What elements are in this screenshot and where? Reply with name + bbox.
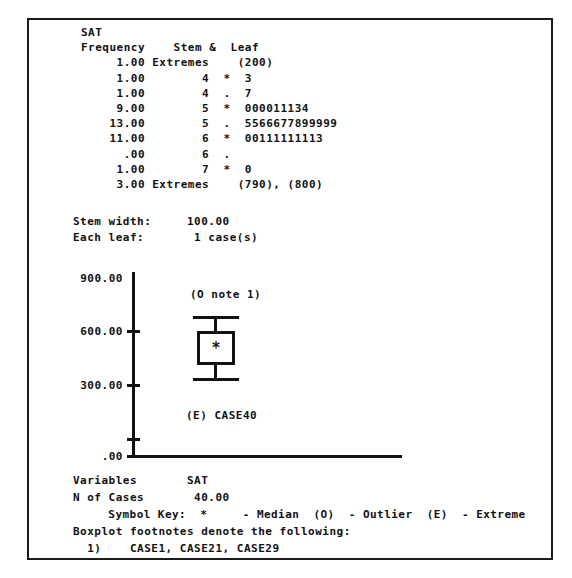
symbol-key-line: Symbol Key: * - Median (O) - Outlier (E)… [73, 506, 553, 523]
footnote-intro: Boxplot footnotes denote the following: [73, 523, 553, 540]
stem-and-leaf-display: SAT Frequency Stem & Leaf 1.00 Extremes … [81, 25, 531, 192]
outlier-annotation: (O note 1) [190, 288, 261, 301]
each-leaf-line: Each leaf: 1 case(s) [73, 230, 523, 246]
lower-whisker-line [214, 364, 217, 380]
y-axis-line [132, 272, 135, 457]
box-iqr-rect [197, 331, 235, 365]
spss-output-frame: SAT Frequency Stem & Leaf 1.00 Extremes … [27, 18, 553, 560]
y-axis-label-900: 900.00 [51, 272, 123, 285]
stem-and-leaf-row: 1.00 7 * 0 [81, 162, 531, 177]
stem-and-leaf-row: 1.00 4 * 3 [81, 71, 531, 86]
stem-and-leaf-header: Frequency Stem & Leaf [81, 40, 531, 55]
stem-and-leaf-row: 1.00 Extremes (200) [81, 55, 531, 70]
stem-and-leaf-row: 13.00 5 . 5566677899999 [81, 116, 531, 131]
stem-width-line: Stem width: 100.00 [73, 214, 523, 230]
stem-and-leaf-row: 3.00 Extremes (790), (800) [81, 177, 531, 192]
stem-leaf-metadata: Stem width: 100.00 Each leaf: 1 case(s) [73, 214, 523, 245]
median-marker: * [209, 340, 223, 356]
extreme-annotation: (E) CASE40 [186, 409, 257, 422]
y-axis-tick-900 [127, 330, 140, 333]
y-axis-label-600: 600.00 [51, 325, 123, 338]
stem-and-leaf-row: 11.00 6 * 00111111113 [81, 131, 531, 146]
y-axis-tick-300 [127, 438, 140, 441]
upper-whisker-cap [193, 316, 239, 319]
variables-line: Variables SAT [73, 472, 553, 489]
y-axis-label-0: .00 [51, 450, 123, 463]
y-axis-tick-600 [127, 384, 140, 387]
stem-and-leaf-row: .00 6 . [81, 147, 531, 162]
stem-and-leaf-row: 9.00 5 * 000011134 [81, 101, 531, 116]
n-of-cases-line: N of Cases 40.00 [73, 489, 553, 506]
footnote-item: 1) CASE1, CASE21, CASE29 [73, 540, 553, 557]
x-axis-baseline [132, 455, 402, 458]
y-axis-label-300: 300.00 [51, 379, 123, 392]
lower-whisker-cap [193, 378, 239, 381]
stem-and-leaf-row: 1.00 4 . 7 [81, 86, 531, 101]
boxplot-footer: Variables SAT N of Cases 40.00 Symbol Ke… [73, 472, 553, 557]
y-axis-tick-0 [127, 455, 140, 458]
variable-title: SAT [81, 25, 531, 40]
upper-whisker-line [214, 317, 217, 333]
